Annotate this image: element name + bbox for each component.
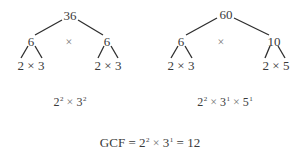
right-prime-factorization: 22 × 31 × 51: [197, 92, 253, 109]
right-tree-times-symbol: ×: [218, 36, 225, 49]
left-prime-factorization: 22 × 32: [54, 92, 87, 109]
tree-branches: [0, 0, 300, 152]
right-tree-right-child: 10: [268, 35, 281, 48]
left-tree-right-leaves: 2 × 3: [95, 59, 122, 72]
left-tree-left-leaves: 2 × 3: [18, 59, 45, 72]
gcf-factor-tree-diagram: 36 6 × 6 2 × 3 2 × 3 60 6 × 10 2 × 3 2 ×…: [0, 0, 300, 152]
right-tree-left-child: 6: [178, 35, 185, 48]
left-tree-left-child: 6: [28, 35, 35, 48]
right-tree-root: 60: [220, 8, 233, 21]
right-tree-right-leaves: 2 × 5: [263, 59, 290, 72]
left-tree-times-symbol: ×: [66, 36, 73, 49]
right-tree-left-leaves: 2 × 3: [168, 59, 195, 72]
left-tree-right-child: 6: [104, 35, 111, 48]
left-tree-root: 36: [64, 9, 77, 22]
gcf-equation: GCF = 22 × 31 = 12: [100, 133, 200, 150]
